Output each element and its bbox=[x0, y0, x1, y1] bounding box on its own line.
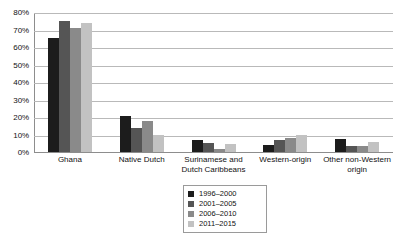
y-axis-tick-label: 50% bbox=[13, 62, 29, 70]
x-axis-label: Other non-Westernorigin bbox=[315, 155, 399, 174]
bar-group bbox=[120, 13, 164, 152]
bar bbox=[203, 143, 214, 152]
bar bbox=[263, 145, 274, 152]
legend-item[interactable]: 2011–2015 bbox=[188, 219, 262, 229]
legend-item[interactable]: 1996–2000 bbox=[188, 189, 262, 199]
bar-chart: 80%70%60%50%40%30%20%10%0% GhanaNative D… bbox=[0, 0, 402, 238]
bar bbox=[296, 135, 307, 152]
bar bbox=[81, 23, 92, 153]
legend-item[interactable]: 2006–2010 bbox=[188, 209, 262, 219]
legend-label: 1996–2000 bbox=[199, 190, 237, 198]
bar-group bbox=[335, 13, 379, 152]
bar bbox=[120, 116, 131, 152]
plot-panel bbox=[34, 13, 393, 153]
y-axis-tick-label: 10% bbox=[13, 132, 29, 140]
bar bbox=[214, 149, 225, 153]
legend-item[interactable]: 2001–2005 bbox=[188, 199, 262, 209]
bar-group bbox=[48, 13, 92, 152]
bar bbox=[59, 21, 70, 152]
y-axis-tick-label: 80% bbox=[13, 9, 29, 17]
bar bbox=[335, 139, 346, 152]
y-axis-tick-label: 20% bbox=[13, 114, 29, 122]
legend-label: 2006–2010 bbox=[199, 210, 237, 218]
y-axis-tick-label: 30% bbox=[13, 97, 29, 105]
plot-area: 80%70%60%50%40%30%20%10%0% GhanaNative D… bbox=[0, 0, 402, 160]
bar bbox=[48, 38, 59, 152]
bar bbox=[225, 144, 236, 152]
y-axis-tick-label: 70% bbox=[13, 27, 29, 35]
x-axis-label-line: origin bbox=[315, 165, 399, 175]
bar-group bbox=[192, 13, 236, 152]
x-axis-label-line: Dutch Caribbeans bbox=[172, 165, 256, 175]
bar bbox=[70, 28, 81, 152]
bar bbox=[131, 128, 142, 152]
bar bbox=[346, 146, 357, 152]
bar-group bbox=[263, 13, 307, 152]
bar bbox=[357, 146, 368, 152]
legend-label: 2001–2005 bbox=[199, 200, 237, 208]
x-axis-line bbox=[34, 152, 393, 153]
bar bbox=[368, 142, 379, 153]
legend-swatch bbox=[188, 191, 194, 197]
x-axis-labels: GhanaNative DutchSurinamese andDutch Car… bbox=[34, 155, 393, 185]
y-axis: 80%70%60%50%40%30%20%10%0% bbox=[0, 0, 32, 160]
legend-swatch bbox=[188, 221, 194, 227]
legend-swatch bbox=[188, 211, 194, 217]
legend-swatch bbox=[188, 201, 194, 207]
bar bbox=[285, 138, 296, 152]
bar bbox=[153, 135, 164, 153]
y-axis-tick-label: 60% bbox=[13, 44, 29, 52]
x-axis-label-line: Other non-Western bbox=[315, 155, 399, 165]
chart-legend: 1996–20002001–20052006–20102011–2015 bbox=[183, 185, 267, 233]
bar bbox=[274, 140, 285, 152]
legend-label: 2011–2015 bbox=[199, 220, 236, 228]
y-axis-tick-label: 40% bbox=[13, 79, 29, 87]
bar bbox=[192, 140, 203, 152]
bar bbox=[142, 121, 153, 152]
